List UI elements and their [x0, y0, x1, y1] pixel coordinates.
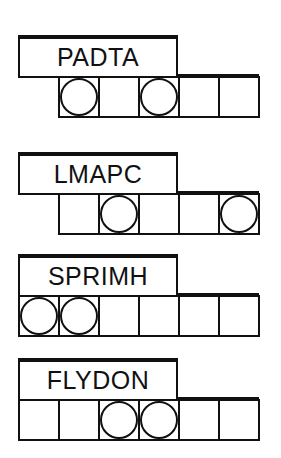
answer-cell[interactable]: [218, 76, 260, 118]
answer-cell[interactable]: [98, 76, 140, 118]
scrambled-word-label: LMAPC: [18, 152, 178, 195]
answer-cell[interactable]: [58, 76, 100, 118]
answer-cell[interactable]: [138, 295, 180, 337]
scrambled-word-label: PADTA: [18, 35, 178, 78]
scrambled-word-label: FLYDON: [18, 358, 178, 401]
answer-cell[interactable]: [178, 399, 220, 441]
answer-cell[interactable]: [138, 399, 180, 441]
answer-cell[interactable]: [58, 295, 100, 337]
circled-letter-marker-icon: [140, 78, 178, 116]
answer-cell[interactable]: [18, 295, 60, 337]
answer-cell[interactable]: [98, 399, 140, 441]
circled-letter-marker-icon: [100, 195, 138, 233]
answer-cell[interactable]: [98, 295, 140, 337]
circled-letter-marker-icon: [100, 401, 138, 439]
circled-letter-marker-icon: [140, 401, 178, 439]
answer-cell[interactable]: [18, 399, 60, 441]
answer-cell[interactable]: [138, 76, 180, 118]
answer-cell[interactable]: [58, 193, 100, 235]
answer-cell[interactable]: [218, 295, 260, 337]
answer-cell[interactable]: [98, 193, 140, 235]
circled-letter-marker-icon: [60, 78, 98, 116]
answer-cell[interactable]: [138, 193, 180, 235]
answer-cell[interactable]: [178, 76, 220, 118]
circled-letter-marker-icon: [60, 297, 98, 335]
answer-cell[interactable]: [58, 399, 100, 441]
answer-cell[interactable]: [178, 193, 220, 235]
scrambled-word-label: SPRIMH: [18, 254, 178, 297]
circled-letter-marker-icon: [220, 195, 258, 233]
answer-cell[interactable]: [218, 399, 260, 441]
circled-letter-marker-icon: [20, 297, 58, 335]
answer-cell[interactable]: [178, 295, 220, 337]
answer-cell[interactable]: [218, 193, 260, 235]
